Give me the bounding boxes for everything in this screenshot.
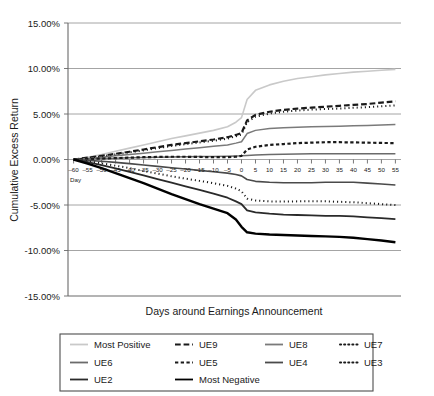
x-tick-label: 15 xyxy=(280,166,287,173)
legend-label: UE7 xyxy=(364,339,382,350)
x-tick-label: –30 xyxy=(152,166,163,173)
x-axis-day-prefix-label: Day xyxy=(70,176,82,183)
x-tick-label: –50 xyxy=(96,166,107,173)
x-tick-label: –35 xyxy=(138,166,149,173)
x-tick-label: –15 xyxy=(194,166,205,173)
x-tick-label: –45 xyxy=(110,166,121,173)
x-tick-label: 0 xyxy=(240,166,244,173)
y-axis-title: Cumulative Excess Return xyxy=(8,98,20,222)
y-tick-label: 15.00% xyxy=(28,18,61,29)
x-tick-label: –60 xyxy=(68,166,79,173)
legend-label: Most Positive xyxy=(94,339,151,350)
legend-label: UE8 xyxy=(289,339,307,350)
y-tick-label: -10.00% xyxy=(25,245,61,256)
legend: Most PositiveUE9UE8UE7UE6UE5UE4UE3UE2Mos… xyxy=(60,334,382,391)
legend-label: UE3 xyxy=(364,357,382,368)
x-tick-label: 25 xyxy=(308,166,315,173)
x-tick-label: 45 xyxy=(364,166,371,173)
legend-label: UE4 xyxy=(289,357,307,368)
x-axis-title: Days around Earnings Announcement xyxy=(146,305,323,317)
x-tick-label: 5 xyxy=(254,166,258,173)
legend-label: Most Negative xyxy=(199,374,260,385)
x-tick-label: –40 xyxy=(124,166,135,173)
x-tick-label: –25 xyxy=(166,166,177,173)
x-tick-label: 30 xyxy=(322,166,329,173)
legend-label: UE6 xyxy=(94,357,112,368)
x-tick-label: –55 xyxy=(82,166,93,173)
x-tick-label: 35 xyxy=(336,166,343,173)
x-tick-label: 20 xyxy=(294,166,301,173)
legend-label: UE5 xyxy=(199,357,217,368)
x-tick-label: 10 xyxy=(266,166,273,173)
chart-figure: 15.00%10.00%5.00%0.00%-5.00%-10.00%-15.0… xyxy=(0,0,434,396)
x-tick-label: –20 xyxy=(180,166,191,173)
legend-label: UE9 xyxy=(199,339,217,350)
y-tick-label: -5.00% xyxy=(30,200,61,211)
x-tick-label: 50 xyxy=(378,166,385,173)
y-tick-label: 10.00% xyxy=(28,63,61,74)
y-axis-tickmarks xyxy=(64,23,68,296)
y-tick-label: -15.00% xyxy=(25,291,61,302)
y-axis-tick-labels: 15.00%10.00%5.00%0.00%-5.00%-10.00%-15.0… xyxy=(25,18,61,302)
x-tick-label: 40 xyxy=(350,166,357,173)
y-tick-label: 5.00% xyxy=(33,109,60,120)
x-tick-label: –10 xyxy=(208,166,219,173)
legend-label: UE2 xyxy=(94,374,112,385)
x-tick-label: 55 xyxy=(392,166,399,173)
x-tick-label: –5 xyxy=(224,166,231,173)
y-tick-label: 0.00% xyxy=(33,154,60,165)
chart-svg: 15.00%10.00%5.00%0.00%-5.00%-10.00%-15.0… xyxy=(0,0,434,396)
